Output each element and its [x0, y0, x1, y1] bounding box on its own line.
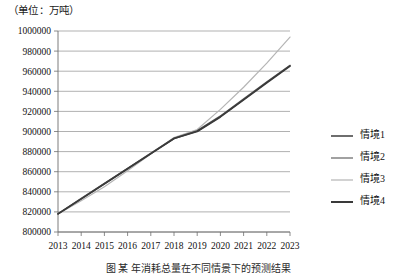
unit-label: （单位：万吨）: [8, 2, 79, 17]
x-tick-label: 2014: [72, 241, 91, 251]
legend-label-情境4: 情境4: [360, 194, 385, 206]
y-axis-tick-labels: 1000000980000960000940000920000900000880…: [18, 26, 52, 237]
x-tick-label: 2017: [141, 241, 160, 251]
y-tick-label: 960000: [23, 67, 52, 77]
y-tick-label: 860000: [23, 167, 52, 177]
line-chart: 1000000980000960000940000920000900000880…: [0, 18, 396, 268]
legend-label-情境3: 情境3: [360, 172, 385, 184]
figure-container: （单位：万吨） 10000009800009600009400009200009…: [0, 0, 396, 274]
y-tick-label: 920000: [23, 107, 52, 117]
y-tick-label: 840000: [23, 187, 52, 197]
x-tick-label: 2022: [257, 241, 276, 251]
data-series-group: [58, 37, 290, 214]
x-tick-label: 2018: [165, 241, 184, 251]
y-tick-label: 940000: [23, 87, 52, 97]
y-tick-label: 800000: [23, 227, 52, 237]
y-tick-label: 980000: [23, 47, 52, 57]
legend-label-情境1: 情境1: [360, 128, 385, 140]
legend-label-情境2: 情境2: [360, 150, 385, 162]
x-tick-label: 2019: [188, 241, 207, 251]
x-tick-label: 2015: [95, 241, 114, 251]
series-line-情境3: [58, 37, 290, 214]
x-tick-label: 2013: [49, 241, 68, 251]
chart-plot-area: 1000000980000960000940000920000900000880…: [0, 18, 396, 268]
y-tick-label: 820000: [23, 207, 52, 217]
gridlines-group: [58, 31, 290, 232]
y-tick-label: 1000000: [18, 26, 52, 36]
x-axis-tick-labels: 2013201420152016201720182019202020212022…: [49, 241, 300, 251]
x-tick-label: 2021: [234, 241, 253, 251]
y-tick-label: 880000: [23, 147, 52, 157]
axis-lines: [54, 31, 290, 236]
x-tick-label: 2023: [281, 241, 300, 251]
y-tick-label: 900000: [23, 127, 52, 137]
chart-legend: 情境1情境2情境3情境4: [331, 128, 385, 206]
x-tick-label: 2020: [211, 241, 230, 251]
figure-caption: 图 某 年消耗总量在不同情景下的预测结果: [0, 260, 396, 274]
x-tick-label: 2016: [118, 241, 137, 251]
